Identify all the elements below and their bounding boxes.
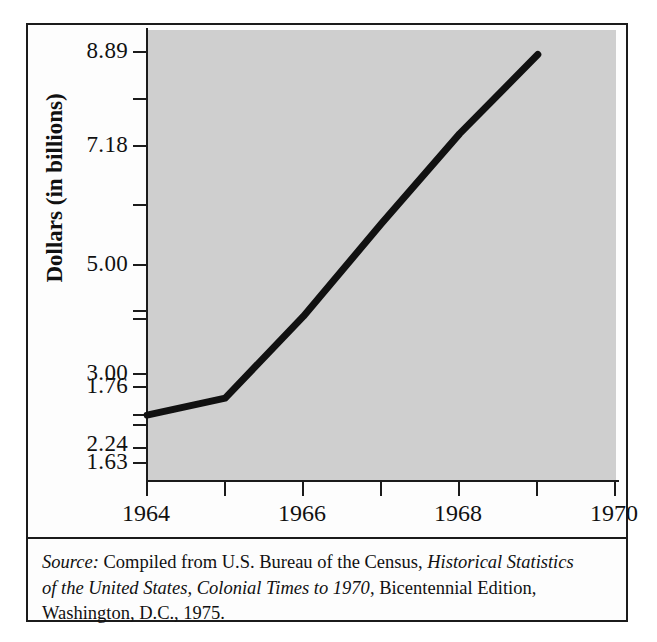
series-polyline (147, 55, 538, 416)
source-note: Source: Compiled from U.S. Bureau of the… (28, 537, 626, 627)
source-text-a: Compiled from U.S. Bureau of the Census, (99, 552, 427, 572)
chart-region: 8.89 7.18 5.00 3.00 (28, 25, 626, 537)
source-text-c: Washington, D.C., 1975. (42, 603, 225, 623)
source-title-part1: Historical Statistics (427, 552, 573, 572)
data-series-line (28, 25, 630, 537)
source-text-b: , Bicentennial Edition, (370, 578, 536, 598)
source-title-part2: of the United States, Colonial Times to … (42, 578, 370, 598)
source-label: Source: (42, 552, 99, 572)
figure-frame: 8.89 7.18 5.00 3.00 (26, 23, 628, 622)
